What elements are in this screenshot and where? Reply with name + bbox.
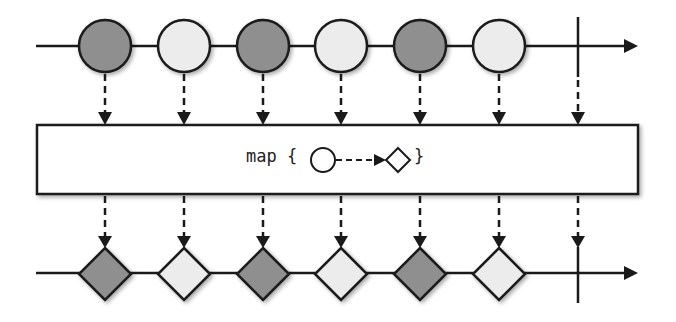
input-marble-1: [79, 20, 131, 72]
arrow-down-icon: [256, 236, 270, 248]
output-marble-3: [237, 248, 289, 300]
input-marble-3: [237, 20, 289, 72]
arrow-right-icon: [624, 266, 638, 280]
arrow-down-icon: [492, 236, 506, 248]
open-brace: {: [287, 146, 297, 166]
arrow-down-icon: [413, 236, 427, 248]
arrow-down-icon: [334, 236, 348, 248]
close-brace: }: [414, 146, 424, 166]
output-marble-4: [315, 248, 367, 300]
input-marble-4: [315, 20, 367, 72]
output-marble-5: [394, 248, 446, 300]
arrow-down-icon: [256, 112, 270, 125]
output-marble-1: [79, 248, 131, 300]
input-marble-6: [473, 20, 525, 72]
arrow-down-icon: [571, 236, 585, 248]
input-marble-5: [394, 20, 446, 72]
input-to-operator-arrows: [98, 74, 585, 125]
output-marble-6: [473, 248, 525, 300]
arrow-down-icon: [177, 112, 191, 125]
arrow-down-icon: [571, 112, 585, 125]
arrow-down-icon: [98, 112, 112, 125]
operator-to-output-arrows: [98, 196, 585, 248]
arrow-right-icon: [624, 39, 638, 53]
arrow-down-icon: [334, 112, 348, 125]
arrow-down-icon: [177, 236, 191, 248]
arrow-down-icon: [98, 236, 112, 248]
operator-name: map: [246, 146, 277, 166]
arrow-down-icon: [413, 112, 427, 125]
operator-label: map {: [246, 146, 297, 166]
input-marble-2: [158, 20, 210, 72]
output-marble-2: [158, 248, 210, 300]
arrow-down-icon: [492, 112, 506, 125]
marble-diagram: [0, 0, 676, 322]
